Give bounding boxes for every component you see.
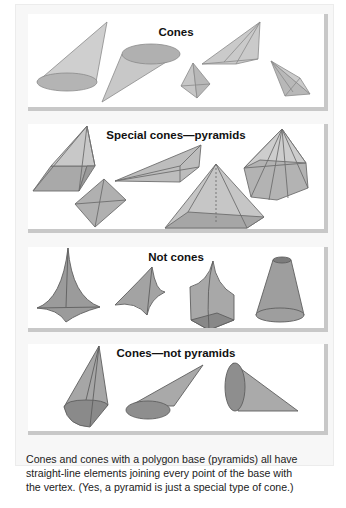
caption-line: the vertex. (Yes, a pyramid is just a sp… (26, 480, 326, 494)
caption-line: straight-line elements joining every poi… (26, 466, 326, 480)
panel-not-cones: Not cones (28, 247, 328, 332)
pyramids-illustration (28, 124, 324, 229)
caption-line: Cones and cones with a polygon base (pyr… (26, 452, 326, 466)
panel-cones-not-pyramids: Cones—not pyramids (28, 344, 328, 435)
panel-cones: Cones (28, 14, 328, 111)
panel-pyramids: Special cones—pyramids (28, 124, 328, 233)
cones-illustration (28, 14, 324, 107)
figure-caption: Cones and cones with a polygon base (pyr… (26, 452, 326, 494)
not-cones-illustration (28, 247, 324, 328)
cones-not-pyramids-illustration (28, 344, 324, 431)
